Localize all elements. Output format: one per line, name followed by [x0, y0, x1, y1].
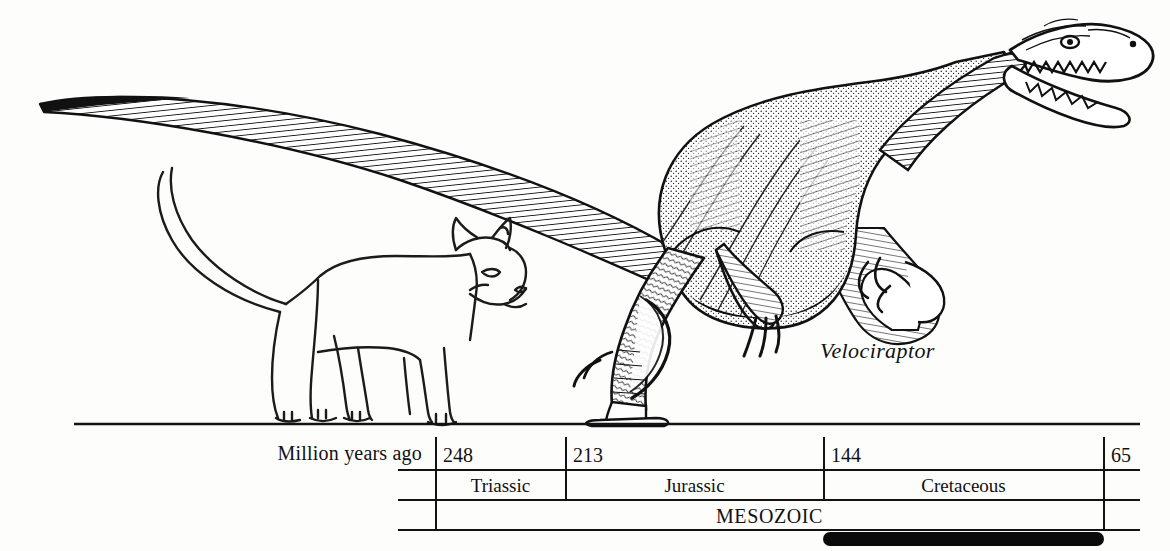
- boundary-rule-65: [1103, 437, 1105, 531]
- figure-page: Million years ago 248 213 144 65 Triassi…: [0, 0, 1170, 551]
- dinosaur-head: [1004, 19, 1153, 127]
- range-bar: [823, 532, 1104, 546]
- age-value-213: 213: [573, 443, 603, 467]
- period-cretaceous: Cretaceous: [824, 474, 1103, 498]
- species-label: Velociraptor: [820, 338, 935, 364]
- age-value-65: 65: [1111, 443, 1131, 467]
- velociraptor-illustration: [40, 19, 1153, 426]
- era-mesozoic: MESOZOIC: [436, 504, 1103, 528]
- age-value-144: 144: [831, 443, 861, 467]
- period-jurassic: Jurassic: [566, 474, 823, 498]
- timeline-rule-top: [398, 469, 1140, 471]
- dinosaur-tail: [40, 96, 676, 292]
- period-triassic: Triassic: [436, 474, 565, 498]
- timeline-rule-bottom: [398, 529, 1140, 531]
- age-value-248: 248: [443, 443, 473, 467]
- timeline-rule-middle: [398, 499, 1140, 501]
- axis-label: Million years ago: [232, 440, 422, 466]
